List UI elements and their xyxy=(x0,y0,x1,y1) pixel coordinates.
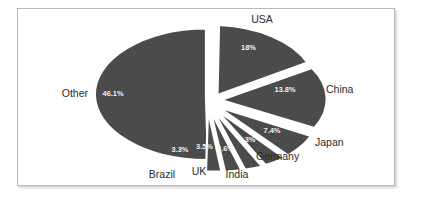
category-label-brazil: Brazil xyxy=(149,168,175,180)
category-label-china: China xyxy=(326,83,354,95)
pie-chart-figure: 46.1% 18% 13.8% 7.4% 4.3% 3.6% 3.5% 3.3%… xyxy=(0,0,424,213)
pie-chart-svg: 46.1% 18% 13.8% 7.4% 4.3% 3.6% 3.5% 3.3%… xyxy=(0,0,424,213)
value-label-brazil: 3.3% xyxy=(172,145,189,154)
value-label-other: 46.1% xyxy=(103,89,124,98)
category-label-germany: Germany xyxy=(256,150,300,162)
value-label-usa: 18% xyxy=(241,43,256,52)
value-label-india: 3.6% xyxy=(217,144,234,153)
value-label-germany: 4.3% xyxy=(239,135,256,144)
category-label-japan: Japan xyxy=(315,136,344,148)
category-label-other: Other xyxy=(62,87,89,99)
value-label-china: 13.8% xyxy=(275,85,296,94)
category-label-usa: USA xyxy=(251,13,273,25)
value-label-japan: 7.4% xyxy=(264,126,281,135)
value-label-uk: 3.5% xyxy=(196,142,213,151)
category-label-india: India xyxy=(226,168,249,180)
category-label-uk: UK xyxy=(192,165,207,177)
